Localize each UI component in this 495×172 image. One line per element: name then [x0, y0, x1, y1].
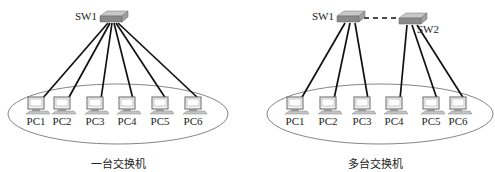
switch-label: SW1 — [75, 10, 97, 22]
pc-pc6[interactable]: PC6 — [448, 97, 472, 127]
pc-pc5[interactable]: PC5 — [421, 97, 445, 127]
pc-pc3[interactable]: PC3 — [352, 97, 376, 127]
switch-label: SW1 — [312, 10, 334, 22]
pc-label: PC3 — [86, 115, 105, 127]
pc-pc5[interactable]: PC5 — [150, 97, 174, 127]
cable-pc2 — [334, 23, 350, 99]
cable-pc3 — [101, 23, 112, 99]
pc-label: PC4 — [118, 115, 137, 127]
pc-label: PC6 — [449, 115, 468, 127]
pc-label: PC6 — [184, 115, 203, 127]
switches: SW1 — [75, 10, 128, 22]
pc-pc6[interactable]: PC6 — [183, 97, 207, 127]
pc-label: PC1 — [27, 115, 46, 127]
cable-pc3 — [355, 23, 368, 99]
pc-pc3[interactable]: PC3 — [85, 97, 109, 127]
pc-pc2[interactable]: PC2 — [52, 97, 76, 127]
pc-pc2[interactable]: PC2 — [318, 97, 342, 127]
switch-label: SW2 — [417, 23, 439, 35]
pc-label: PC2 — [53, 115, 72, 127]
pcs: PC1PC2PC3PC4PC5PC6 — [285, 97, 472, 127]
pc-pc4[interactable]: PC4 — [384, 97, 408, 127]
diagram-caption: 一台交换机 — [91, 157, 146, 171]
single-switch-diagram: SW1 PC1PC2PC3PC4PC5PC6 一台交换机 — [8, 10, 228, 171]
diagram-caption: 多台交换机 — [348, 157, 403, 171]
cable-pc1 — [301, 23, 345, 99]
switches: SW1SW2 — [312, 10, 439, 35]
pcs: PC1PC2PC3PC4PC5PC6 — [26, 97, 207, 127]
pc-pc1[interactable]: PC1 — [26, 97, 50, 127]
pc-pc1[interactable]: PC1 — [285, 97, 309, 127]
multi-switch-diagram: SW1SW2 PC1PC2PC3PC4PC5PC6 多台交换机 — [267, 10, 493, 171]
network-topology-canvas: SW1 PC1PC2PC3PC4PC5PC6 一台交换机 SW1SW2 PC1P… — [0, 0, 495, 172]
cable-pc4 — [400, 25, 407, 99]
pc-label: PC2 — [319, 115, 338, 127]
pc-label: PC4 — [385, 115, 404, 127]
switch-sw1[interactable]: SW1 — [75, 10, 128, 22]
pc-label: PC1 — [286, 115, 305, 127]
pc-label: PC5 — [151, 115, 170, 127]
pc-label: PC5 — [422, 115, 441, 127]
pc-pc4[interactable]: PC4 — [117, 97, 141, 127]
switch-sw2[interactable]: SW2 — [399, 13, 439, 35]
pc-label: PC3 — [353, 115, 372, 127]
switch-sw1[interactable]: SW1 — [312, 10, 365, 22]
